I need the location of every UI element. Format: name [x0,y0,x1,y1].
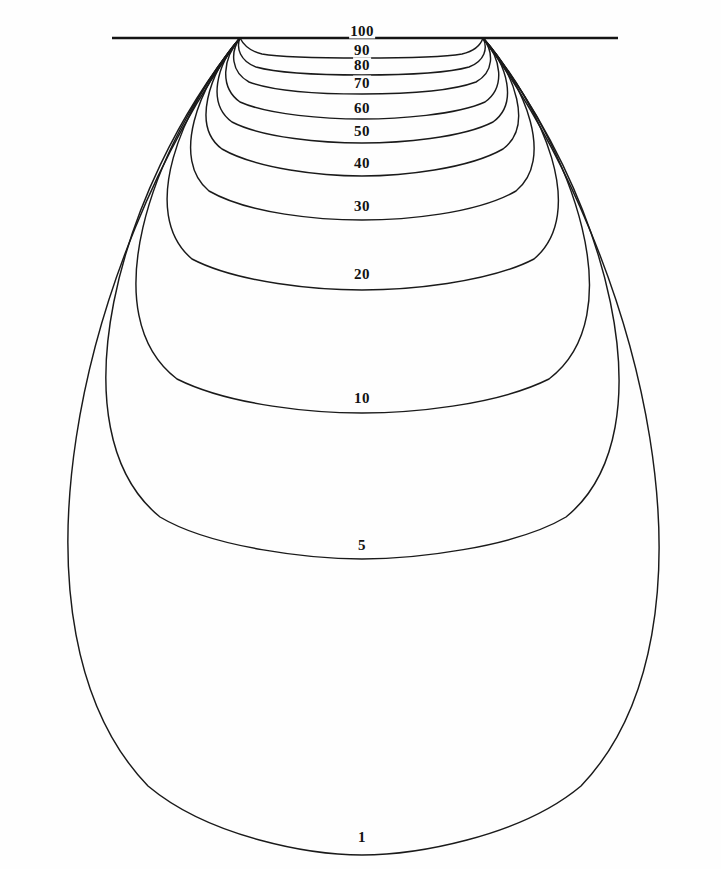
contour-line-5 [106,38,619,559]
contour-label-5: 5 [357,538,367,553]
contour-label-30: 30 [353,199,371,214]
contour-label-80: 80 [353,58,371,73]
contour-label-40: 40 [353,156,371,171]
contour-label-50: 50 [353,124,371,139]
contour-label-10: 10 [353,391,371,406]
contour-label-70: 70 [353,76,371,91]
contour-label-20: 20 [353,267,371,282]
contour-label-100: 100 [349,24,375,39]
contour-label-90: 90 [353,43,371,58]
contour-plot-figure: 100 90 80 70 60 50 40 30 20 10 5 1 [0,0,721,869]
contour-label-1: 1 [357,830,367,845]
contour-label-60: 60 [353,101,371,116]
